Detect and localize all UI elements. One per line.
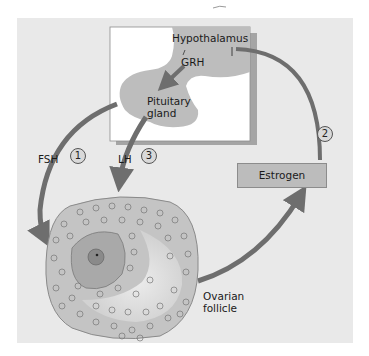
stray-mark bbox=[213, 6, 226, 8]
diagram-canvas: Hypothalamus GRH Pituitary gland FSH 1 L… bbox=[0, 0, 369, 356]
ovarian-follicle bbox=[46, 197, 198, 341]
label-lh: LH bbox=[118, 153, 132, 165]
label-hypothalamus: Hypothalamus bbox=[172, 32, 248, 44]
label-pituitary-line2: gland bbox=[147, 107, 176, 119]
step-number-3: 3 bbox=[141, 148, 157, 164]
step-number-1: 1 bbox=[70, 148, 86, 164]
label-ovarian: Ovarian bbox=[203, 290, 244, 302]
label-fsh: FSH bbox=[38, 153, 58, 165]
label-pituitary-line1: Pituitary bbox=[147, 95, 191, 107]
step-number-2: 2 bbox=[317, 126, 333, 142]
label-follicle: follicle bbox=[203, 302, 237, 314]
label-grh: GRH bbox=[181, 56, 204, 68]
estrogen-box: Estrogen bbox=[237, 163, 327, 188]
